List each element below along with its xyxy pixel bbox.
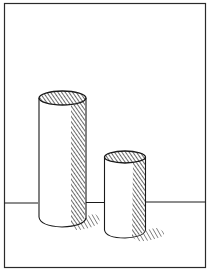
tall-cylinder-top-opening xyxy=(39,91,86,105)
short-cylinder-top-opening xyxy=(105,151,146,163)
illustration xyxy=(0,0,210,271)
tall-cylinder xyxy=(39,91,86,227)
short-cylinder xyxy=(105,151,146,238)
tall-cylinder-side-shading xyxy=(71,98,85,226)
short-cylinder-side-shading xyxy=(132,157,145,237)
